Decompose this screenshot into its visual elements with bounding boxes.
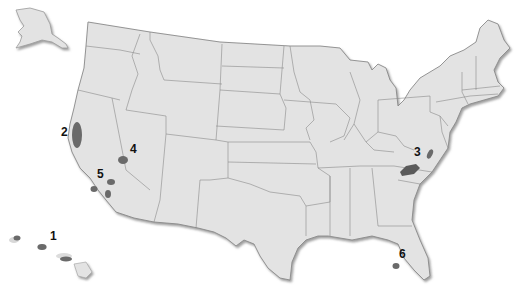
marker-label-6: 6 <box>399 248 406 260</box>
marker-4-shape[interactable] <box>118 156 128 164</box>
alaska <box>16 8 68 48</box>
marker-label-4: 4 <box>130 143 137 155</box>
marker-label-1: 1 <box>50 230 57 242</box>
us-map <box>0 0 526 294</box>
marker-label-3: 3 <box>414 146 421 158</box>
marker-label-2: 2 <box>61 126 68 138</box>
marker-1-shapes[interactable] <box>14 236 73 262</box>
hawaii <box>9 237 92 278</box>
marker-2-shape[interactable] <box>72 122 82 148</box>
marker-label-5: 5 <box>97 168 104 180</box>
marker-6-shape[interactable] <box>393 263 400 269</box>
